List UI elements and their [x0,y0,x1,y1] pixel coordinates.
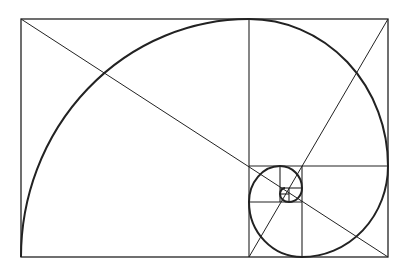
golden-spiral-diagram [0,0,410,271]
diagonal-line [21,19,388,257]
diagonal-lines [21,19,388,257]
diagonal-line [249,19,388,257]
